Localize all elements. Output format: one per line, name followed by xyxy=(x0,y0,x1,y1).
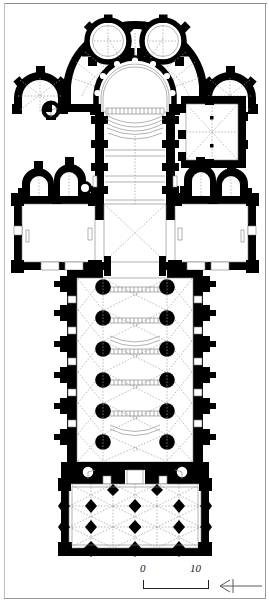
transept-arm-east xyxy=(168,193,259,273)
narthex-group xyxy=(58,462,212,557)
figure-canvas: .w { fill:#000000; stroke:none; } /* sol… xyxy=(0,0,269,611)
nave-floor xyxy=(77,278,193,462)
church-floor-plan: .w { fill:#000000; stroke:none; } /* sol… xyxy=(0,0,269,611)
choir-altar-platform xyxy=(106,108,164,114)
scale-rule xyxy=(143,580,209,589)
scale-bar: 0 10 xyxy=(140,563,212,597)
scale-start-label: 0 xyxy=(140,563,146,574)
north-arrow xyxy=(218,578,264,594)
stair-turret-west xyxy=(44,103,96,121)
choir-steps xyxy=(106,115,164,139)
scale-end-label: 10 xyxy=(190,563,201,574)
crossing xyxy=(95,204,175,276)
sacristy-block xyxy=(178,96,248,168)
transept-west-apsidal-chapels xyxy=(18,157,91,198)
nave-group xyxy=(54,270,216,462)
choir-group xyxy=(91,108,179,220)
transept-arm-west xyxy=(11,193,102,273)
west-front-massif xyxy=(61,462,209,484)
